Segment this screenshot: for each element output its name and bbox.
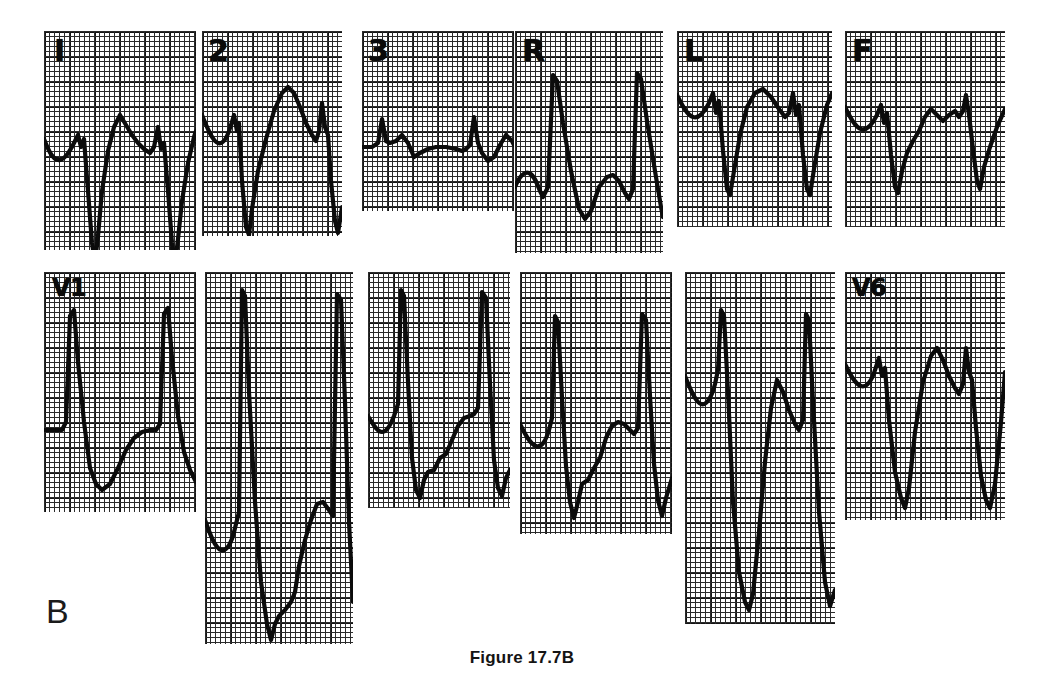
ecg-figure: I23RLFV1V6BFigure 17.7B	[0, 0, 1044, 689]
lead-label-lead-III: 3	[368, 36, 388, 66]
ecg-trace-lead-V5	[685, 272, 835, 624]
ecg-panel-lead-I	[44, 31, 196, 250]
lead-label-lead-aVR: R	[522, 36, 545, 66]
ecg-panel-lead-V1	[44, 272, 196, 512]
ecg-trace-lead-V6	[845, 272, 1005, 520]
ecg-panel-lead-V5	[685, 272, 835, 624]
ecg-trace-lead-I	[44, 31, 196, 250]
lead-label-lead-II: 2	[208, 36, 228, 66]
ecg-trace-lead-V3	[368, 272, 510, 508]
lead-label-lead-aVF: F	[852, 36, 872, 66]
ecg-panel-lead-V4	[520, 272, 672, 534]
lead-label-lead-aVL: L	[684, 36, 703, 66]
ecg-trace-lead-V1	[44, 272, 196, 512]
panel-letter: B	[46, 592, 69, 631]
ecg-panel-lead-V2	[205, 272, 353, 644]
ecg-panel-lead-V6	[845, 272, 1005, 520]
ecg-panel-lead-V3	[368, 272, 510, 508]
ecg-trace-lead-V4	[520, 272, 672, 534]
ecg-trace-lead-V2	[205, 272, 353, 644]
lead-label-lead-V6: V6	[852, 276, 886, 300]
lead-label-lead-I: I	[54, 36, 65, 66]
lead-label-lead-V1: V1	[52, 276, 86, 300]
figure-caption: Figure 17.7B	[0, 648, 1044, 668]
